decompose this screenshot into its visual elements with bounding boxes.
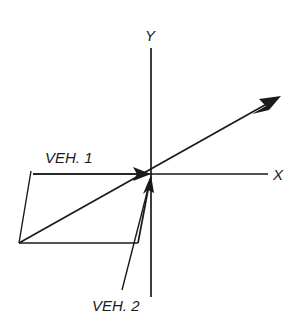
veh-2-vector-shaft xyxy=(138,190,148,243)
veh-2-leader-line xyxy=(122,177,151,290)
resultant-vector-group xyxy=(19,96,281,243)
veh-2-label: VEH. 2 xyxy=(92,297,140,314)
x-axis-label: X xyxy=(272,166,284,183)
resultant-vector-arrowhead xyxy=(252,96,281,114)
parallelogram-left-side xyxy=(19,171,31,243)
axes-group xyxy=(33,48,268,297)
vector-diagram-canvas: Y X VEH. 1 VEH. 2 xyxy=(0,0,299,326)
vector-diagram: Y X VEH. 1 VEH. 2 xyxy=(0,0,299,326)
y-axis-label: Y xyxy=(145,27,156,44)
veh-1-label: VEH. 1 xyxy=(45,149,93,166)
